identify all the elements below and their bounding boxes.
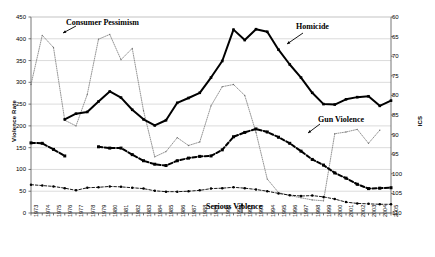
plot-area — [0, 0, 435, 257]
annotation-consumer-pessimism: Consumer Pessimism — [66, 18, 139, 27]
annotation-gun-violence: Gun Violence — [318, 115, 364, 124]
annotation-homicide: Homicide — [296, 22, 329, 31]
annotation-serious-violence: Serious Violence — [206, 202, 262, 211]
series-homicide — [63, 28, 392, 127]
chart-figure: Violence Rate ICS 0501001502002503003504… — [0, 0, 435, 257]
series-gun-violence — [30, 127, 393, 190]
